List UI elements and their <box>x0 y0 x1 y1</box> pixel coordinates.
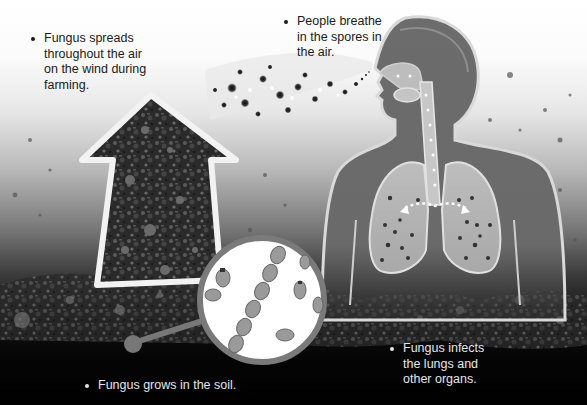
fungus-infographic: Fungus spreads throughout the air on the… <box>0 0 587 405</box>
caption-line: throughout the air <box>44 47 142 61</box>
caption-line: Fungus grows in the soil. <box>98 378 236 392</box>
caption-line: farming. <box>44 78 89 92</box>
caption-people-breathe: People breathe in the spores in the air. <box>284 14 417 61</box>
caption-fungus-grows: Fungus grows in the soil. <box>85 378 298 394</box>
caption-line: on the wind during <box>44 62 146 76</box>
caption-line: the air. <box>297 45 335 59</box>
caption-fungus-infects: Fungus infects the lungs and other organ… <box>390 341 523 388</box>
caption-line: People breathe <box>297 14 382 28</box>
caption-line: the lungs and <box>403 357 478 371</box>
caption-line: Fungus spreads <box>44 31 134 45</box>
caption-line: Fungus infects <box>403 341 484 355</box>
caption-line: in the spores in <box>297 30 382 44</box>
caption-line: other organs. <box>403 372 477 386</box>
caption-fungus-spreads: Fungus spreads throughout the air on the… <box>31 31 174 93</box>
